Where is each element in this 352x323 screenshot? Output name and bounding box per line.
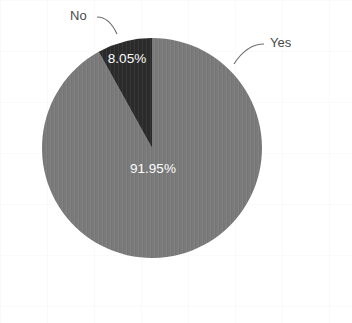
category-label-no: No [70,8,87,23]
slice-value-yes: 91.95% [130,161,176,176]
slice-value-no: 8.05% [108,51,146,66]
leader-line-no [97,17,117,34]
leader-line-yes [234,44,264,64]
pie-chart-svg: 8.05% 91.95% No Yes [0,0,352,323]
source-note [196,316,352,323]
category-label-yes: Yes [270,35,292,50]
pie-chart-figure: 8.05% 91.95% No Yes [0,0,352,323]
